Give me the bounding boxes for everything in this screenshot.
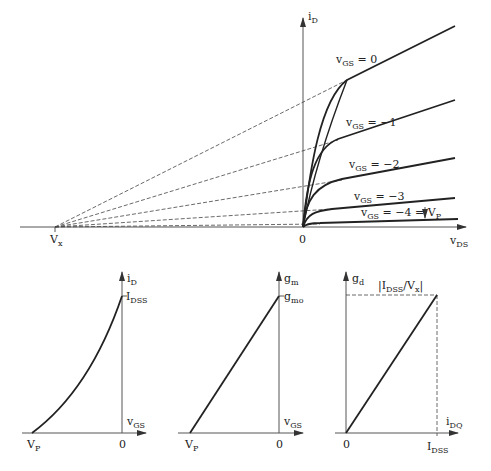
label-vgs-minus3: vGS = −3: [353, 190, 405, 205]
label-vgs-minus2: vGS = −2: [348, 158, 400, 173]
idss-label: IDSS: [126, 290, 148, 305]
gd-line: [346, 295, 437, 433]
pinch-off-locus: [303, 80, 347, 227]
vds-axis-label: vDS: [449, 234, 468, 249]
gmo-label: gmo: [284, 290, 304, 305]
drain-conductance-graph: gd |IDSS/Vx| iDQ 0 IDSS: [335, 272, 463, 455]
label-vgs-minus4-vp: vGS = −4 = VP: [360, 206, 442, 221]
label-vgs-0: vGS = 0: [335, 53, 377, 68]
gd-axis-label: gd: [352, 272, 364, 287]
origin-label: 0: [343, 438, 350, 451]
vx-label: Vx: [49, 233, 63, 248]
jfet-characteristics-diagram: iD vDS 0 Vx vGS = 0 vGS = −1 vGS = −2 vG…: [0, 0, 491, 471]
idss-label: IDSS: [427, 440, 449, 455]
origin-label: 0: [299, 233, 306, 246]
origin-label: 0: [119, 438, 126, 451]
vgs-axis-label: vGS: [283, 415, 302, 430]
transfer-characteristic-graph: iD IDSS vGS 0 VP: [22, 272, 148, 453]
transconductance-graph: gm gmo vGS 0 VP: [178, 272, 304, 453]
label-vgs-minus1: vGS = −1: [345, 116, 397, 131]
idss-over-vx-label: |IDSS/Vx|: [378, 279, 423, 294]
transfer-curve: [32, 296, 122, 433]
gm-line: [190, 296, 279, 433]
id-axis-label: iD: [308, 10, 318, 25]
vp-label: VP: [184, 438, 199, 453]
gm-axis-label: gm: [284, 272, 299, 287]
id-axis-label: iD: [127, 272, 137, 287]
drain-characteristics-graph: iD vDS 0 Vx vGS = 0 vGS = −1 vGS = −2 vG…: [20, 10, 468, 249]
idq-axis-label: iDQ: [446, 415, 463, 430]
vp-label: VP: [26, 438, 41, 453]
origin-label: 0: [276, 438, 283, 451]
vgs-axis-label: vGS: [126, 415, 145, 430]
